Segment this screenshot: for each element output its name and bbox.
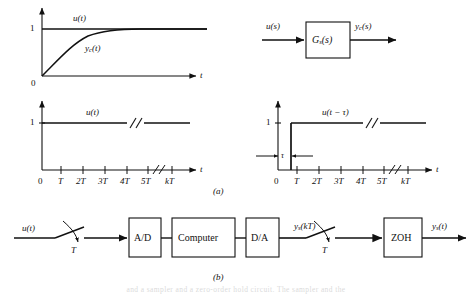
plot-step-output-label: yc(t) [85, 44, 100, 54]
block-gs-input-label: u(s) [266, 22, 280, 31]
plot-ut-tick-3: 3T [98, 177, 108, 186]
sampler-in-period-label: T [71, 246, 76, 255]
ys-tail: (s) [362, 21, 372, 31]
sampler-out-period-label: T [322, 246, 327, 255]
plot-ut-tick-1: T [58, 177, 63, 186]
plot-ut-delayed-y-one-label: 1 [266, 118, 271, 127]
block-ad-label: A/D [134, 233, 151, 243]
plot-step-response-axes [42, 8, 207, 76]
plot-ut-delayed-tick-4: 4T [356, 177, 366, 186]
plot-ut-delayed-tick-0: 0 [274, 177, 279, 186]
plot-ut-delayed-tick-1: T [294, 177, 299, 186]
plot-step-input-label: u(t) [73, 14, 86, 23]
plot-ut-x-axis-label: t [200, 165, 203, 174]
block-gs-box-label: Gs(s) [312, 35, 332, 46]
caption-part-b: (b) [213, 272, 224, 282]
yst-tail: (t) [439, 221, 448, 231]
plot-ut-tick-0: 0 [38, 177, 43, 186]
plot-step-x-axis-label: t [200, 71, 203, 80]
figure-root: 1 0 t u(t) yc(t) u(s) yc(s) Gs(s) 1 u(t)… [0, 0, 472, 295]
yc-tail: (t) [92, 43, 101, 53]
plot-ut-signal-label: u(t) [86, 108, 99, 117]
plot-ut-delayed-x-axis-label: t [436, 165, 439, 174]
block-computer-label: Computer [178, 233, 218, 243]
plot-ut-delayed-signal-label: u(t − τ) [322, 108, 349, 117]
plot-ut-tick-6: kT [165, 177, 174, 186]
plot-ut-tick-5: 5T [141, 177, 151, 186]
block-da-label: D/A [251, 233, 268, 243]
plot-step-y-one-label: 1 [30, 24, 35, 33]
plot-ut-y-one-label: 1 [30, 118, 35, 127]
page-footer-ghost-text: and a sampler and a zero-order hold circ… [0, 285, 472, 295]
plot-ut-delayed-tick-5: 5T [377, 177, 387, 186]
plot-ut-tick-4: 4T [120, 177, 130, 186]
plot-ut-axes [39, 101, 196, 174]
block-zoh-label: ZOH [391, 233, 412, 243]
plot-ut-delayed-tau-label: τ [281, 152, 284, 160]
plot-ut-delayed-tick-6: kT [401, 177, 410, 186]
digital-output-label: ys(t) [432, 222, 447, 232]
digital-input-label: u(t) [22, 224, 35, 233]
digital-mid-signal-label: ys(kT) [294, 222, 316, 232]
caption-part-a: (a) [213, 186, 224, 196]
plot-ut-delayed-tick-2: 2T [312, 177, 322, 186]
block-gs-output-label: yc(s) [355, 22, 371, 32]
plot-step-origin-label: 0 [31, 79, 36, 88]
gs-tail: (s) [322, 34, 333, 45]
yskt-tail: (kT) [301, 221, 316, 231]
plot-ut-delayed-tick-3: 3T [334, 177, 344, 186]
plot-ut-tick-2: 2T [76, 177, 86, 186]
